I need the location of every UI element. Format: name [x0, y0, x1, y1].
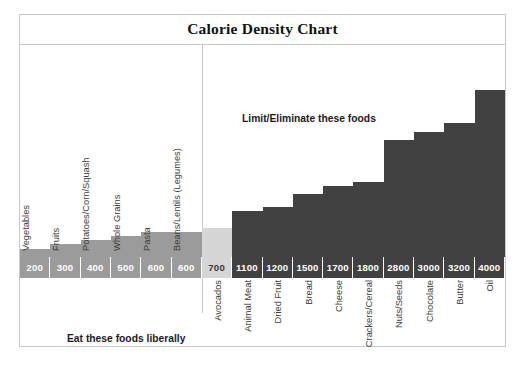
bar-label-text: Oil	[485, 280, 495, 291]
bar	[323, 186, 353, 257]
bar-label-text: Chocolate	[425, 280, 435, 322]
bar	[20, 249, 50, 257]
bar-label-text: Potatoes/Corn/Squash	[81, 157, 91, 251]
bar-label-text: Cheese	[334, 280, 344, 312]
bar-column	[475, 45, 505, 257]
bar-column	[202, 45, 232, 257]
bar	[414, 132, 444, 257]
chart-title-bar: Calorie Density Chart	[19, 14, 506, 45]
bar-label: Crackers/Cereal	[353, 278, 383, 346]
bar-value-label: 4000	[475, 257, 505, 278]
page-title: Calorie Density Chart	[187, 20, 338, 38]
bar-label-text: Vegetables	[21, 205, 31, 251]
bar-label: Avocados	[202, 278, 232, 346]
bar	[384, 140, 414, 257]
bar-column: Vegetables	[20, 45, 50, 257]
bar-row: VegetablesFruitsPotatoes/Corn/SquashWhol…	[20, 45, 505, 257]
bar-column	[263, 45, 293, 257]
bar-column	[232, 45, 262, 257]
bar-label	[20, 278, 50, 346]
bar-label-text: Crackers/Cereal	[364, 280, 374, 347]
bar-label: Animal Meat	[232, 278, 262, 346]
bar-value-label: 1100	[232, 257, 262, 278]
bar-value-label: 300	[50, 257, 80, 278]
bar-column	[414, 45, 444, 257]
annotation-limit: Limit/Eliminate these foods	[242, 113, 376, 124]
bar	[444, 123, 474, 257]
bar-column: Whole Grains	[111, 45, 141, 257]
bar-label: Whole Grains	[111, 45, 141, 255]
bar-label: Chocolate	[414, 278, 444, 346]
bar-column	[353, 45, 383, 257]
bar-label: Vegetables	[20, 45, 50, 255]
calorie-density-chart: Calorie Density Chart VegetablesFruitsPo…	[0, 0, 526, 366]
bar-value-label: 200	[20, 257, 50, 278]
bar	[141, 232, 171, 257]
bar	[81, 240, 111, 257]
value-label-row: 2003004005006006007001100120015001700180…	[20, 257, 505, 278]
bar-column: Beans/Lentils (Legumes)	[172, 45, 202, 257]
bar-value-label: 2800	[384, 257, 414, 278]
bar	[111, 236, 141, 257]
bar-column	[293, 45, 323, 257]
bar-value-label: 1700	[323, 257, 353, 278]
bar	[232, 211, 262, 257]
bar-label: Beans/Lentils (Legumes)	[172, 45, 202, 255]
bar-value-label: 600	[141, 257, 171, 278]
bar-column	[384, 45, 414, 257]
bar	[50, 244, 80, 257]
bar-label: Oil	[475, 278, 505, 346]
bar-value-label: 3200	[444, 257, 474, 278]
bar-label-text: Dried Fruit	[273, 280, 283, 323]
bar-label: Dried Fruit	[263, 278, 293, 346]
bar-label: Cheese	[323, 278, 353, 346]
bar-column: Fruits	[50, 45, 80, 257]
bar-value-label: 400	[81, 257, 111, 278]
bar-label: Bread	[293, 278, 323, 346]
bar	[475, 90, 505, 257]
bar-value-label: 1500	[293, 257, 323, 278]
bar-value-label: 3000	[414, 257, 444, 278]
bar-column: Pasta	[141, 45, 171, 257]
bar-label-text: Nuts/Seeds	[394, 280, 404, 328]
bar-label-text: Animal Meat	[243, 280, 253, 332]
bar	[293, 194, 323, 257]
bar-column	[323, 45, 353, 257]
bar-value-label: 500	[111, 257, 141, 278]
bar-label: Potatoes/Corn/Squash	[81, 45, 111, 255]
bar-value-label: 700	[202, 257, 232, 278]
bar-label: Pasta	[141, 45, 171, 255]
bar-value-label: 1800	[353, 257, 383, 278]
bar	[353, 182, 383, 257]
bar	[263, 207, 293, 257]
bar-label-text: Avocados	[213, 280, 223, 321]
bar	[202, 228, 232, 257]
plot-area: VegetablesFruitsPotatoes/Corn/SquashWhol…	[20, 45, 505, 346]
bar-column: Potatoes/Corn/Squash	[81, 45, 111, 257]
bar	[172, 232, 202, 257]
bar-column	[444, 45, 474, 257]
bar-label: Nuts/Seeds	[384, 278, 414, 346]
bar-label: Butter	[444, 278, 474, 346]
bar-label: Fruits	[50, 45, 80, 255]
bar-label-text: Butter	[455, 280, 465, 305]
annotation-eat: Eat these foods liberally	[67, 333, 185, 344]
bar-value-label: 1200	[263, 257, 293, 278]
bar-value-label: 600	[172, 257, 202, 278]
bar-label-text: Bread	[304, 280, 314, 305]
